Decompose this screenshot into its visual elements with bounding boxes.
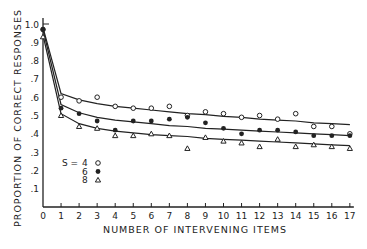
marker-filled-circle (347, 133, 352, 138)
marker-open-triangle (203, 135, 208, 140)
marker-open-triangle (185, 146, 190, 151)
legend-title: S = (62, 158, 78, 168)
marker-open-circle (149, 106, 154, 111)
marker-open-triangle (239, 140, 244, 145)
x-tick-label: 9 (203, 211, 209, 221)
legend: S =468 (62, 158, 101, 185)
marker-filled-circle (185, 115, 190, 120)
marker-open-circle (77, 99, 82, 104)
marker-open-triangle (311, 142, 316, 147)
x-tick-label: 13 (272, 211, 283, 221)
marker-open-circle (203, 110, 208, 115)
marker-open-circle (311, 124, 316, 129)
chart: 01234567891011121314151617.1.2.3.4.5.6.7… (0, 0, 367, 249)
marker-open-triangle (167, 133, 172, 138)
fit-curve (43, 30, 350, 136)
y-tick-label: .7 (30, 74, 39, 84)
y-tick-label: .2 (30, 166, 39, 176)
x-tick-label: 12 (254, 211, 265, 221)
marker-filled-circle (59, 106, 64, 111)
marker-filled-circle (131, 119, 136, 124)
marker-open-triangle (275, 137, 280, 142)
marker-filled-circle (41, 27, 46, 32)
marker-filled-circle (239, 131, 244, 136)
marker-open-circle (257, 113, 262, 118)
x-tick-label: 2 (76, 211, 82, 221)
marker-filled-circle (221, 126, 226, 131)
x-tick-label: 0 (40, 211, 46, 221)
y-tick-label: .5 (30, 111, 39, 121)
data-points (40, 27, 352, 150)
x-tick-label: 11 (236, 211, 247, 221)
y-tick-label: .9 (30, 38, 39, 48)
y-axis-label: PROPORTION OF CORRECT RESPONSES (12, 9, 23, 227)
y-tick-label: .3 (30, 148, 39, 158)
marker-open-triangle (149, 131, 154, 136)
marker-open-circle (167, 104, 172, 109)
marker-filled-circle (95, 119, 100, 124)
chart-axes: 01234567891011121314151617.1.2.3.4.5.6.7… (25, 18, 356, 221)
marker-filled-circle (293, 130, 298, 135)
marker-open-circle (95, 95, 100, 100)
marker-filled-circle (311, 133, 316, 138)
marker-open-circle (221, 111, 226, 116)
x-tick-label: 16 (326, 211, 338, 221)
marker-filled-circle (167, 117, 172, 122)
x-tick-label: 8 (185, 211, 191, 221)
marker-open-triangle (131, 133, 136, 138)
legend-label: 8 (82, 175, 88, 185)
x-tick-label: 15 (308, 211, 319, 221)
marker-filled-circle (329, 133, 334, 138)
marker-open-circle (275, 117, 280, 122)
fit-curve (43, 28, 350, 125)
marker-filled-circle (77, 111, 82, 116)
y-tick-label: 1.0 (25, 20, 40, 30)
marker-open-triangle (58, 113, 63, 118)
x-tick-label: 3 (94, 211, 100, 221)
marker-filled-circle (257, 128, 262, 133)
marker-open-triangle (95, 177, 100, 182)
y-tick-label: .6 (30, 93, 39, 103)
marker-open-circle (131, 106, 136, 111)
marker-filled-circle (149, 119, 154, 124)
x-tick-label: 10 (218, 211, 230, 221)
x-tick-label: 14 (290, 211, 302, 221)
x-axis-label: NUMBER OF INTERVENING ITEMS (103, 224, 287, 235)
marker-open-triangle (347, 146, 352, 151)
x-tick-label: 17 (344, 211, 355, 221)
marker-open-circle (293, 111, 298, 116)
marker-filled-circle (203, 120, 208, 125)
marker-open-triangle (95, 126, 100, 131)
marker-open-circle (59, 95, 64, 100)
marker-open-circle (330, 124, 335, 129)
marker-filled-circle (275, 128, 280, 133)
x-tick-label: 4 (112, 211, 118, 221)
y-tick-label: .1 (30, 184, 39, 194)
x-tick-label: 7 (166, 211, 172, 221)
marker-filled-circle (113, 128, 118, 133)
marker-open-triangle (113, 133, 118, 138)
marker-open-triangle (257, 144, 262, 149)
fit-curves (43, 28, 350, 146)
x-tick-label: 1 (58, 211, 64, 221)
y-tick-label: .4 (30, 129, 39, 139)
x-tick-label: 5 (130, 211, 136, 221)
marker-open-triangle (293, 144, 298, 149)
fit-curve (43, 35, 350, 146)
marker-open-circle (113, 104, 118, 109)
marker-open-circle (239, 115, 244, 120)
y-tick-label: .8 (30, 56, 39, 66)
marker-open-circle (96, 161, 101, 166)
x-tick-label: 6 (148, 211, 154, 221)
marker-filled-circle (96, 169, 101, 174)
